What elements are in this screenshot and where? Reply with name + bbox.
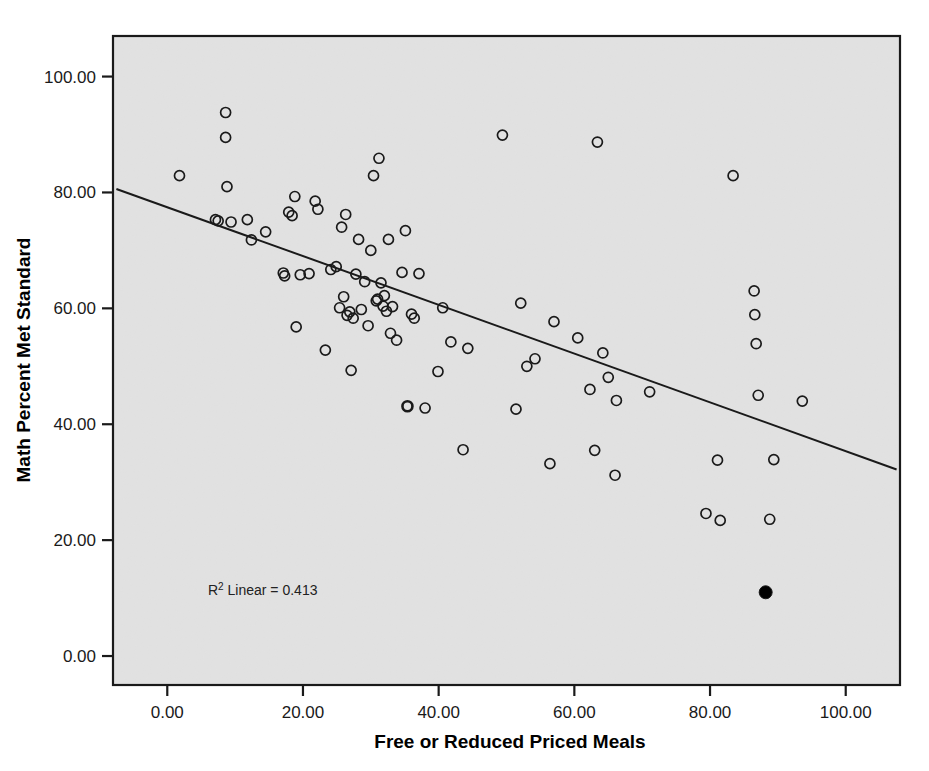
x-tick-label: 20.00 [282,703,325,722]
y-tick-label: 20.00 [53,531,96,550]
scatter-plot-figure: 0.0020.0040.0060.0080.00100.00 0.0020.00… [0,0,929,771]
y-tick-label: 0.00 [63,647,96,666]
x-axis-title: Free or Reduced Priced Meals [374,731,645,752]
r-label: R [208,582,218,598]
data-point-highlighted [759,586,772,599]
y-tick-label: 80.00 [53,183,96,202]
annotations-layer: R2 Linear = 0.413 [208,581,318,598]
x-tick-label: 60.00 [553,703,596,722]
x-tick-label: 0.00 [151,703,184,722]
x-tick-label: 100.00 [820,703,872,722]
r-value-text: Linear = 0.413 [224,582,318,598]
x-tick-label: 40.00 [417,703,460,722]
y-tick-label: 60.00 [53,299,96,318]
y-axis-title: Math Percent Met Standard [13,238,34,483]
x-tick-label: 80.00 [689,703,732,722]
chart-canvas: 0.0020.0040.0060.0080.00100.00 0.0020.00… [0,0,929,771]
r-squared-annotation: R2 Linear = 0.413 [208,581,318,598]
y-tick-label: 40.00 [53,415,96,434]
y-tick-label: 100.00 [44,68,96,87]
